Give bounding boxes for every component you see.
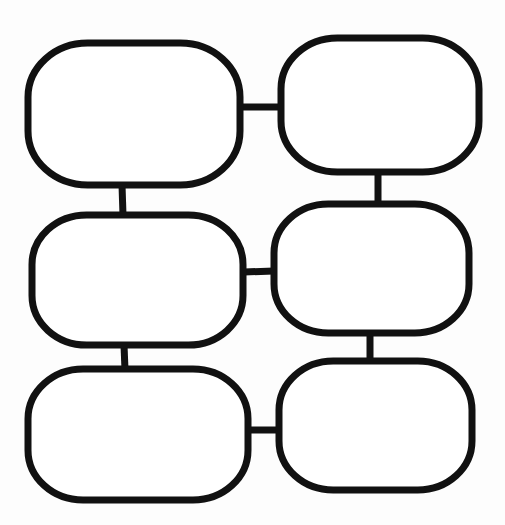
- connector-node-1-node-3: [122, 185, 123, 215]
- bubble-node-2[interactable]: [281, 38, 479, 172]
- bubble-node-4[interactable]: [274, 204, 469, 333]
- bubble-outline: [28, 43, 240, 185]
- bubble-outline: [281, 38, 479, 172]
- bubble-outline: [28, 369, 248, 500]
- bubble-outline: [274, 204, 469, 333]
- diagram-canvas: [0, 0, 505, 525]
- bubble-node-3[interactable]: [32, 215, 243, 345]
- bubble-outline: [32, 215, 243, 345]
- bubble-node-1[interactable]: [28, 43, 240, 185]
- bubble-diagram: [0, 0, 505, 525]
- connector-node-3-node-4: [244, 271, 274, 272]
- bubble-outline: [279, 361, 472, 490]
- bubble-node-5[interactable]: [28, 369, 248, 500]
- bubble-node-6[interactable]: [279, 361, 472, 490]
